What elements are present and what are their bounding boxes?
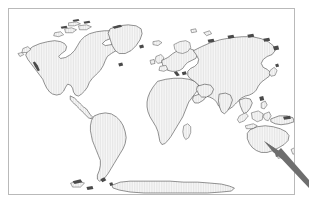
map-frame: .land{ fill:url(#landhatch); stroke:#3a3…	[8, 8, 295, 195]
world-map-figure: .land{ fill:url(#landhatch); stroke:#3a3…	[0, 0, 309, 209]
world-map-svg: .land{ fill:url(#landhatch); stroke:#3a3…	[9, 9, 294, 194]
